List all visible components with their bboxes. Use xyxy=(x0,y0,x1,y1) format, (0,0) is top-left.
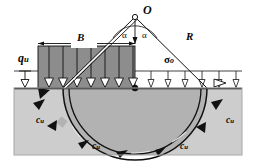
cu-subscript: u xyxy=(40,117,44,124)
dimension-arrow-B-right xyxy=(129,42,135,46)
label-cu-bottom-right: cu xyxy=(180,142,188,152)
label-cu-right-upper: cu xyxy=(226,116,234,126)
cu-subscript: u xyxy=(96,143,100,150)
label-radius-R: R xyxy=(186,31,193,42)
bearing-capacity-diagram: O B R qu σo α α cu cu cu cu xyxy=(0,0,256,161)
sigma-subscript: o xyxy=(170,56,174,65)
label-cu-bottom-left: cu xyxy=(92,142,100,152)
label-center-O: O xyxy=(143,4,152,16)
label-angle-alpha-right: α xyxy=(142,31,147,40)
cu-subscript: u xyxy=(230,117,234,124)
label-surcharge-sigma-o: σo xyxy=(164,54,174,65)
left-datum-arrow xyxy=(21,71,29,88)
qu-subscript: u xyxy=(24,54,29,64)
cu-subscript: u xyxy=(184,143,188,150)
surcharge-arrow-group xyxy=(151,71,236,80)
label-cu-left-upper: cu xyxy=(36,116,44,126)
label-ultimate-bearing-pressure: qu xyxy=(18,52,29,64)
dimension-arrow-B-left xyxy=(38,42,44,46)
label-footing-width-B: B xyxy=(77,32,84,43)
center-point-O-marker xyxy=(132,14,137,19)
label-angle-alpha-left: α xyxy=(122,31,127,40)
diagram-canvas xyxy=(0,0,256,161)
